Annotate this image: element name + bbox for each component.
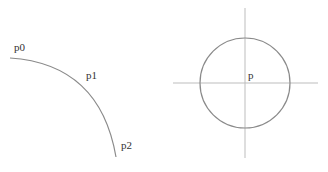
bezier-curve [10, 58, 116, 157]
label-p0: p0 [14, 41, 26, 53]
left-figure: p0 p1 p2 [10, 41, 132, 157]
label-p: p [248, 69, 254, 81]
right-figure: p [173, 8, 318, 158]
label-p1: p1 [86, 69, 97, 81]
diagram-canvas: p0 p1 p2 p [0, 0, 328, 172]
label-p2: p2 [121, 139, 132, 151]
